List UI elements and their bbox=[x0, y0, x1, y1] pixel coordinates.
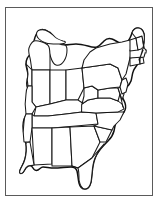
map-frame-border bbox=[5, 7, 153, 196]
figure-root: Outline map of the eastern United States bbox=[0, 0, 161, 207]
state-boundary-arkansas bbox=[23, 114, 32, 142]
state-boundary-mississippi bbox=[32, 128, 52, 165]
eastern-us-outline-map bbox=[6, 8, 154, 197]
state-boundary-illinois bbox=[32, 70, 50, 107]
state-boundary-alabama bbox=[52, 127, 72, 166]
state-boundary-wisconsin bbox=[29, 41, 50, 70]
state-boundary-pennsylvania bbox=[82, 64, 122, 90]
state-boundary-rhode-island bbox=[140, 57, 144, 64]
state-boundary-north-carolina bbox=[94, 112, 124, 130]
state-boundary-georgia bbox=[70, 126, 100, 168]
state-boundary-indiana bbox=[50, 70, 66, 104]
